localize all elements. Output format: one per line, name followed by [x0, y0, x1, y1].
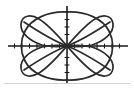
figure-root — [0, 0, 134, 92]
curve-plot-svg — [0, 0, 134, 92]
